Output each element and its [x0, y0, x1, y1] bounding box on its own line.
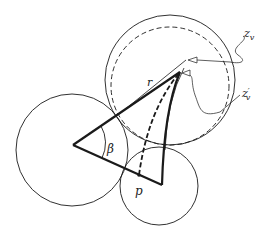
bottom-circle [120, 147, 198, 225]
triangle-edge-left-bottom [73, 145, 162, 185]
triangle-edge-curved [162, 72, 180, 185]
label-r: r [147, 76, 153, 89]
label-zv: zv [243, 27, 255, 42]
geometry-diagram: r β p zv z′v [0, 0, 273, 235]
label-p: p [135, 184, 143, 198]
zvp-arrowhead-icon [182, 70, 190, 76]
label-beta: β [106, 142, 114, 156]
point-p [137, 173, 141, 177]
label-zv-prime: z′v [241, 86, 251, 102]
zv-arrowhead-icon [188, 57, 197, 63]
beta-angle-arc [101, 126, 106, 158]
zvp-leader [187, 74, 240, 114]
